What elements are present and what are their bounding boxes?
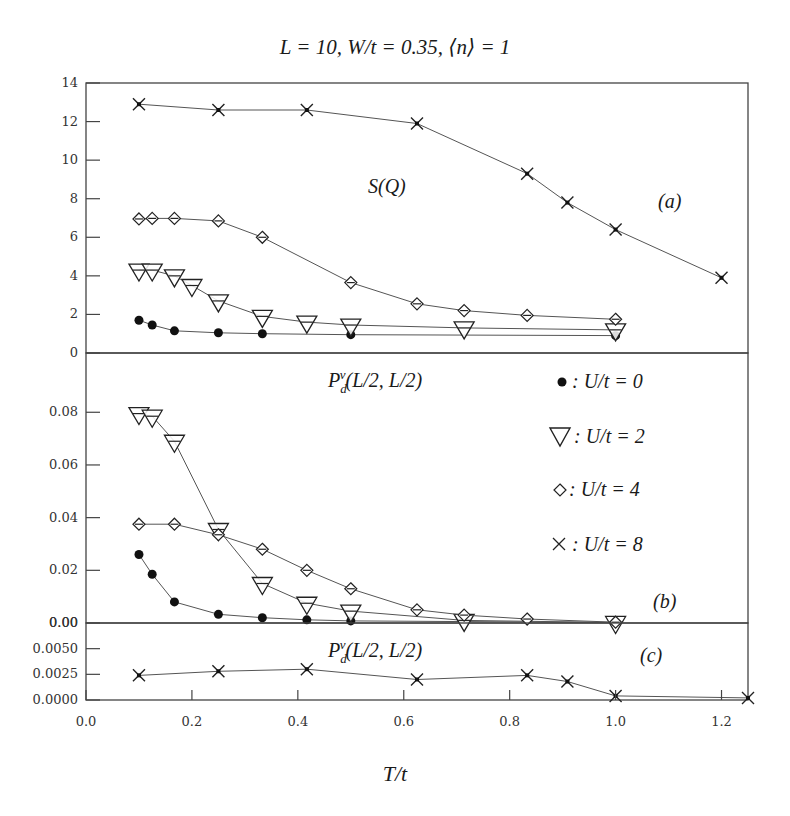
x-tick-label: 0.2 (182, 714, 203, 729)
panel-b: 0.000.020.040.060.08 Pdv(L/2, L/2) (b) :… (49, 353, 748, 633)
y-tick-label: 0.0050 (33, 641, 79, 656)
data-point-circle (134, 316, 143, 325)
y-tick-label: 4 (70, 268, 78, 283)
panel-b-label: (b) (653, 590, 677, 613)
y-tick-label: 0.02 (49, 562, 78, 577)
panel-a-quantity-label: S(Q) (368, 175, 406, 198)
triangle-down-icon (550, 428, 570, 446)
data-point-triangle (252, 310, 272, 327)
figure-canvas: L = 10, W/t = 0.35, ⟨n⟩ = 1 02468101214 … (0, 0, 790, 816)
data-point-circle (214, 610, 223, 619)
y-tick-label: 0.08 (49, 404, 78, 419)
svg-text:: U/t = 0: : U/t = 0 (572, 370, 643, 392)
series-u-t-0 (134, 550, 620, 627)
data-point-circle (258, 613, 267, 622)
panel-b-series (129, 408, 626, 634)
legend-item-u4: : U/t = 4 (554, 478, 640, 500)
x-tick-label: 0.0 (76, 714, 97, 729)
data-point-triangle (341, 605, 361, 622)
legend-item-u8: : U/t = 8 (553, 533, 643, 555)
y-tick-label: 8 (70, 191, 78, 206)
y-tick-label: 12 (61, 114, 78, 129)
panel-a-series (129, 98, 728, 341)
figure-title: L = 10, W/t = 0.35, ⟨n⟩ = 1 (279, 35, 511, 59)
series-u-t-2 (129, 408, 626, 634)
legend: : U/t = 0 : U/t = 2 : U/t = 4 : U/t = 8 (550, 370, 645, 555)
data-point-circle (148, 321, 157, 330)
panel-b-y-axis: 0.000.020.040.060.08 (49, 404, 100, 630)
data-point-triangle (182, 280, 202, 297)
data-point-triangle (142, 264, 162, 281)
panel-c-series (133, 663, 754, 704)
data-point-circle (170, 597, 179, 606)
panel-c-label: (c) (640, 644, 663, 667)
panel-c-y-axis: 0.00000.00250.00500.00 (33, 615, 101, 707)
cross-icon (553, 538, 565, 550)
y-tick-label: 0 (70, 345, 78, 360)
diamond-icon (554, 484, 566, 496)
data-point-triangle (606, 324, 626, 341)
svg-text:: U/t = 2: : U/t = 2 (574, 425, 645, 447)
filled-circle-icon (558, 378, 567, 387)
x-tick-label: 0.8 (499, 714, 520, 729)
panel-a-label: (a) (658, 190, 682, 213)
series-u-t-4 (133, 212, 622, 325)
y-tick-label: 10 (61, 152, 78, 167)
data-point-triangle (297, 316, 317, 333)
series-u-t-0 (134, 316, 620, 340)
svg-text:: U/t = 8: : U/t = 8 (572, 533, 643, 555)
panel-a: 02468101214 S(Q) (a) (61, 75, 748, 360)
svg-text:: U/t = 4: : U/t = 4 (569, 478, 640, 500)
data-point-triangle (164, 270, 184, 287)
data-point-circle (134, 550, 143, 559)
x-axis-title: T/t (383, 761, 408, 786)
y-tick-label: 0.00 (49, 615, 78, 630)
panel-b-quantity-label: Pdv(L/2, L/2) (327, 367, 423, 396)
data-point-circle (170, 326, 179, 335)
data-point-triangle (252, 577, 272, 594)
panel-b-frame (86, 353, 748, 623)
panel-a-y-axis: 02468101214 (61, 75, 100, 360)
x-tick-label: 1.0 (605, 714, 626, 729)
x-tick-label: 1.2 (711, 714, 732, 729)
series-u-t-4 (133, 518, 622, 628)
y-tick-label: 2 (70, 306, 78, 321)
data-point-triangle (341, 319, 361, 336)
series-u-t-8 (133, 663, 754, 704)
data-point-triangle (454, 322, 474, 339)
series-u-t-2 (129, 264, 626, 341)
data-point-triangle (164, 435, 184, 452)
data-point-circle (148, 570, 157, 579)
y-tick-label: 14 (61, 75, 78, 90)
y-tick-label: 0.0025 (33, 666, 79, 681)
series-u-t-8 (133, 98, 728, 284)
panel-c: 0.00000.00250.00500.00 Pdv(L/2, L/2) (c) (33, 615, 755, 707)
x-tick-label: 0.6 (393, 714, 414, 729)
data-point-circle (214, 328, 223, 337)
y-tick-label: 0.06 (49, 457, 78, 472)
legend-item-u2: : U/t = 2 (550, 425, 645, 447)
panel-c-quantity-label: Pdv(L/2, L/2) (327, 637, 423, 666)
data-point-triangle (297, 597, 317, 614)
y-tick-label: 6 (70, 229, 78, 244)
legend-item-u0: : U/t = 0 (558, 370, 643, 392)
x-tick-label: 0.4 (287, 714, 308, 729)
y-tick-label: 0.04 (49, 510, 78, 525)
data-point-circle (258, 329, 267, 338)
y-tick-label: 0.0000 (33, 692, 79, 707)
